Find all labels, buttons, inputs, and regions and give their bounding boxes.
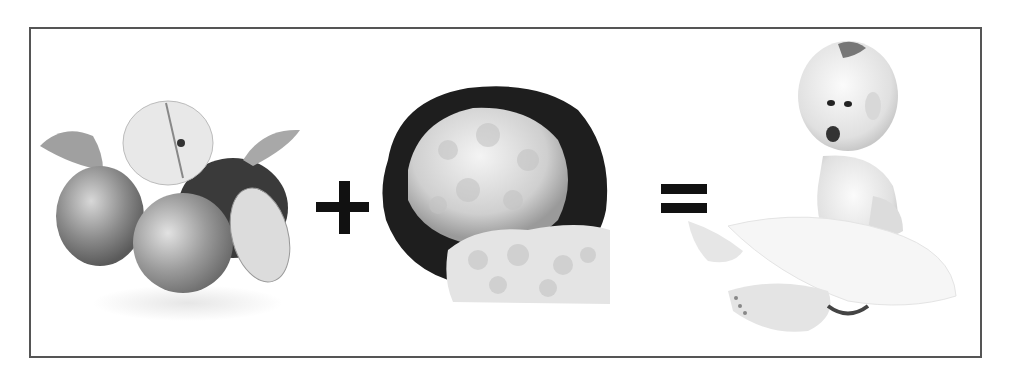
baby-image: [688, 36, 968, 341]
cauliflower-image: [378, 80, 614, 304]
apples-image: [38, 98, 300, 323]
